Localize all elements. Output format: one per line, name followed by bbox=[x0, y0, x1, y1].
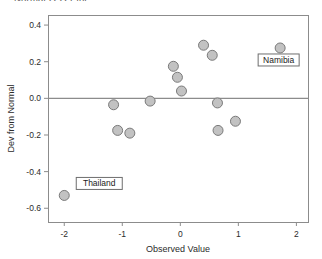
data-point[interactable] bbox=[176, 86, 186, 96]
data-point[interactable] bbox=[172, 72, 182, 82]
data-point[interactable] bbox=[275, 43, 285, 53]
y-tick-label: -0.2 bbox=[26, 130, 41, 140]
data-point[interactable] bbox=[230, 116, 240, 126]
x-tick-label: 0 bbox=[178, 229, 183, 239]
data-point[interactable] bbox=[213, 125, 223, 135]
y-tick-label: 0.2 bbox=[29, 57, 41, 67]
data-point[interactable] bbox=[207, 50, 217, 60]
plot-frame bbox=[49, 16, 309, 223]
data-point[interactable] bbox=[199, 40, 209, 50]
y-axis-title: Dev from Normal bbox=[6, 84, 16, 152]
point-label-text: Namibia bbox=[263, 55, 294, 65]
data-point[interactable] bbox=[109, 100, 119, 110]
x-tick-label: -2 bbox=[60, 229, 68, 239]
data-point[interactable] bbox=[125, 128, 135, 138]
x-tick-label: 1 bbox=[236, 229, 241, 239]
data-point[interactable] bbox=[59, 190, 69, 200]
data-point[interactable] bbox=[113, 125, 123, 135]
y-tick-label: 0.4 bbox=[29, 20, 41, 30]
clipped-chart-title: Normal Q-Q Plot bbox=[14, 0, 87, 1]
data-point[interactable] bbox=[168, 61, 178, 71]
y-tick-label: -0.6 bbox=[26, 203, 41, 213]
scatter-plot-figure: Normal Q-Q Plot 0.40.20.0-0.2-0.4-0.6-2-… bbox=[0, 0, 322, 259]
plot-canvas: 0.40.20.0-0.2-0.4-0.6-2-1012Observed Val… bbox=[0, 0, 322, 259]
data-point[interactable] bbox=[145, 96, 155, 106]
point-label-text: Thailand bbox=[83, 178, 116, 188]
x-tick-label: 2 bbox=[294, 229, 299, 239]
y-tick-label: 0.0 bbox=[29, 93, 41, 103]
x-tick-label: -1 bbox=[119, 229, 127, 239]
y-tick-label: -0.4 bbox=[26, 167, 41, 177]
x-axis-title: Observed Value bbox=[146, 244, 210, 254]
data-point[interactable] bbox=[212, 98, 222, 108]
